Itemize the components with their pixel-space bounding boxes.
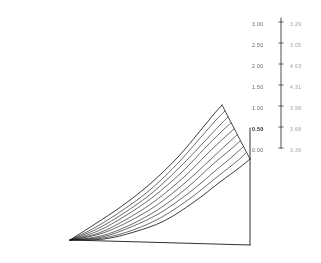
mesh-line <box>70 105 222 240</box>
surface-mesh-lines <box>70 105 250 240</box>
surface-outline <box>222 105 250 159</box>
mesh-line <box>70 111 225 240</box>
mesh-line <box>70 129 234 240</box>
surface-baseline <box>70 240 250 245</box>
surface-plot-canvas <box>0 0 321 263</box>
mesh-line <box>70 123 231 240</box>
surface-plot-figure: 3.002.502.001.501.000.500.003.293.054.63… <box>0 0 321 263</box>
surface-end-cap <box>222 105 250 159</box>
mesh-line <box>70 159 250 240</box>
mesh-line <box>70 117 228 240</box>
